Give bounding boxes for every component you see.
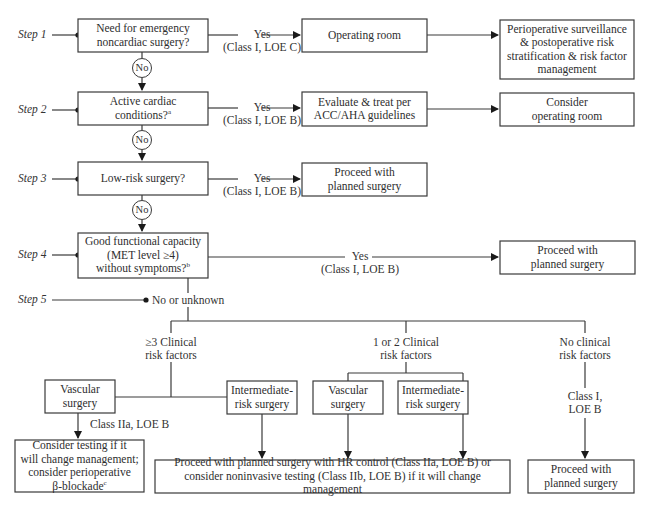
text-line: without symptoms? [96,262,186,274]
group-2-intermediate-box: Intermediate-risk surgery [398,381,468,414]
step-4-yes-label: Yes (Class I, LOE B) [310,250,410,276]
group-1-intermediate-box: Intermediate-risk surgery [227,381,297,414]
text-line: Proceed with planned surgery with HR con… [155,456,510,470]
evidence-text: (Class I, LOE B) [212,185,312,198]
step-1-yes-label: Yes (Class I, LOE C) [212,28,312,54]
text-line: Perioperative surveillance [507,23,627,37]
text-line: Intermediate- [402,384,464,398]
text-line: No clinical [545,336,625,349]
step-3-question-box: Low-risk surgery? [78,162,208,195]
step-2-yes-label: Yes (Class I, LOE B) [212,101,312,127]
text-line: Intermediate- [231,384,293,398]
yes-text: Yes [212,28,312,41]
text-line: Evaluate & treat per [314,96,415,110]
text-line: LOE B [560,403,610,416]
step-1-label: Step 1 [18,28,46,40]
text-line: planned surgery [531,258,605,272]
text-line: conditions? [115,109,168,121]
footnote-marker: c [104,479,107,487]
text-line: Vascular [60,383,100,397]
evaluate-treat-box: Evaluate & treat perACC/AHA guidelines [302,92,427,126]
text-line: Vascular [328,384,368,398]
text-line: planned surgery [544,477,618,491]
text-line: Class I, [560,390,610,403]
group-1-vascular-box: Vascularsurgery [45,380,115,413]
text-line: surgery [60,397,100,411]
perioperative-surveillance-box: Perioperative surveillance& postoperativ… [500,20,634,79]
step-1-question-box: Need for emergencynoncardiac surgery? [78,19,208,52]
group-2-vascular-box: Vascularsurgery [313,381,383,414]
text-line: (MET level ≥4) [85,249,201,263]
group-3-proceed-box: Proceed withplanned surgery [528,460,634,493]
text-line: Proceed with [531,244,605,258]
text-line: surgery [328,398,368,412]
text-line: & postoperative risk [507,36,627,50]
group-1-2-risk-label: 1 or 2 Clinicalrisk factors [366,336,446,362]
text-line: risk surgery [402,398,464,412]
step-5-label: Step 5 [18,293,46,305]
evidence-text: (Class I, LOE B) [212,114,312,127]
text-line: noncardiac surgery? [96,36,190,50]
footnote-marker: a [168,108,171,116]
text-line: operating room [532,110,603,124]
text-line: ACC/AHA guidelines [314,109,415,123]
group-3plus-risk-label: ≥3 Clinicalrisk factors [131,336,211,362]
group-1-vascular-evidence: Class IIa, LOE B [90,418,190,431]
text-line: management [507,63,627,77]
no-circle-3: No [132,200,152,220]
step-4-label: Step 4 [18,248,46,260]
text-line: stratification & risk factor [507,50,627,64]
evidence-text: (Class I, LOE C) [212,41,312,54]
step-3-label: Step 3 [18,172,46,184]
text-line: will change management; [20,453,138,467]
group-no-risk-label: No clinicalrisk factors [545,336,625,362]
text-line: β-blockade [52,480,103,492]
yes-text: Yes [212,101,312,114]
no-circle-1: No [132,58,152,78]
text-line: risk factors [366,349,446,362]
text-line: Need for emergency [96,22,190,36]
footnote-marker: b [186,261,190,269]
step-4-question-box: Good functional capacity(MET level ≥4)wi… [78,233,208,278]
evidence-text: (Class I, LOE B) [310,263,410,276]
yes-text: Yes [212,172,312,185]
text-line: consider noninvasive testing (Class IIb,… [155,470,510,497]
text-line: Proceed with [328,166,402,180]
no-or-unknown-label: No or unknown [152,294,232,307]
text-line: ≥3 Clinical [131,336,211,349]
step-3-yes-label: Yes (Class I, LOE B) [212,172,312,198]
text-line: risk factors [545,349,625,362]
consider-testing-box: Consider testing if itwill change manage… [15,440,144,492]
text-line: risk factors [131,349,211,362]
no-circle-2: No [132,130,152,150]
text-line: planned surgery [328,180,402,194]
consider-operating-room-box: Consideroperating room [500,93,634,126]
hr-control-outcome-box: Proceed with planned surgery with HR con… [155,460,510,493]
group-3-evidence: Class I,LOE B [560,390,610,416]
text-line: Proceed with [544,463,618,477]
step-2-question-box: Active cardiacconditions?a [78,92,208,125]
step-2-label: Step 2 [18,103,46,115]
text-line: Good functional capacity [85,235,201,249]
text-line: Consider testing if it [20,439,138,453]
step-4-proceed-box: Proceed withplanned surgery [500,241,635,274]
operating-room-box: Operating room [302,19,427,52]
text-line: consider perioperative [20,466,138,480]
text-line: 1 or 2 Clinical [366,336,446,349]
yes-text: Yes [310,250,410,263]
text-line: Active cardiac [110,95,177,109]
text-line: risk surgery [231,398,293,412]
text-line: Consider [532,96,603,110]
step-3-proceed-box: Proceed withplanned surgery [302,163,427,196]
